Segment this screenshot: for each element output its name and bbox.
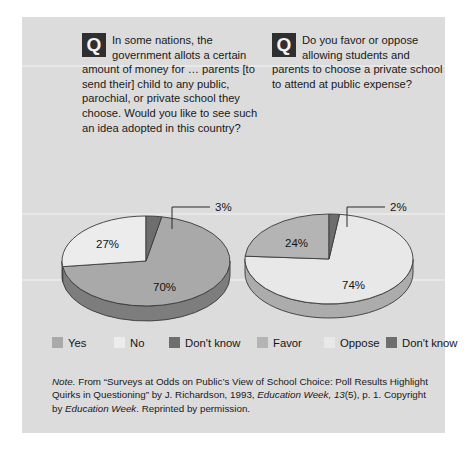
- pie-chart-1-svg: 3% 27% 70%: [50, 185, 250, 330]
- question-block-2: Q Do you favor or oppose allowing studen…: [272, 33, 447, 91]
- legend-label-dontknow-1: Don't know: [185, 337, 241, 349]
- legend-item-yes: Yes: [52, 333, 86, 349]
- figure-note: Note. From “Surveys at Odds on Public’s …: [52, 375, 432, 415]
- legend-label-no: No: [130, 337, 144, 349]
- pie-callout-label-2: 2%: [390, 201, 407, 213]
- pie-slice-label-favor: 74%: [342, 279, 365, 291]
- legend-item-dontknow-2: Don't know: [386, 333, 458, 349]
- legend-swatch-no: [114, 337, 125, 348]
- legend-item-oppose: Oppose: [324, 333, 380, 349]
- note-lead: Note.: [52, 376, 75, 387]
- note-source-2: Education Week: [65, 403, 136, 414]
- pie-chart-2: 2% 24% 74%: [237, 185, 437, 330]
- legend-label-favor: Favor: [273, 337, 302, 349]
- legend-swatch-oppose: [324, 337, 335, 348]
- note-source-1: Education Week, 13: [257, 389, 345, 400]
- pie-slice-label-yes: 70%: [153, 281, 176, 293]
- legend-label-dontknow-2: Don't know: [402, 337, 458, 349]
- question-text-1: In some nations, the government allots a…: [82, 33, 262, 135]
- legend-label-oppose: Oppose: [340, 337, 380, 349]
- legend: Yes No Don't know Favor Oppose Don't kno…: [52, 333, 445, 351]
- legend-item-dontknow-1: Don't know: [169, 333, 241, 349]
- legend-item-favor: Favor: [257, 333, 302, 349]
- legend-swatch-favor: [257, 337, 268, 348]
- legend-item-no: No: [114, 333, 144, 349]
- q-icon: Q: [272, 33, 296, 57]
- pie-chart-2-svg: 2% 24% 74%: [237, 185, 437, 330]
- pie-chart-1: 3% 27% 70%: [50, 185, 250, 330]
- figure-panel: Q In some nations, the government allots…: [22, 17, 445, 433]
- pie-slice-label-oppose: 24%: [285, 237, 308, 249]
- pie-callout-label-1: 3%: [215, 201, 232, 213]
- question-text-2: Do you favor or oppose allowing students…: [272, 33, 447, 91]
- question-block-1: Q In some nations, the government allots…: [82, 33, 262, 135]
- pie-slice-label-no: 27%: [96, 238, 119, 250]
- legend-swatch-yes: [52, 337, 63, 348]
- legend-swatch-dontknow-2: [386, 337, 397, 348]
- legend-label-yes: Yes: [68, 337, 86, 349]
- legend-swatch-dontknow-1: [169, 337, 180, 348]
- q-icon: Q: [82, 33, 106, 57]
- note-tail: . Reprinted by permission.: [136, 403, 250, 414]
